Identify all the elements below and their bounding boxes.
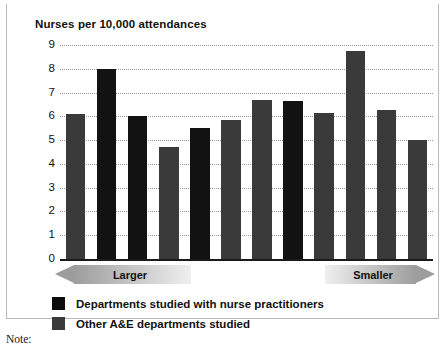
y-axis-tick: 1: [49, 229, 55, 241]
bar: [346, 51, 366, 259]
legend-item-label: Other A&E departments studied: [76, 318, 250, 330]
y-axis-tick: 0: [49, 253, 55, 265]
y-axis-tick: 6: [49, 111, 55, 123]
y-axis-tick: 9: [49, 39, 55, 51]
legend-item-label: Departments studied with nurse practitio…: [76, 298, 324, 310]
bar: [128, 116, 148, 259]
bar-series: [60, 45, 433, 259]
banner-larger: Larger: [55, 265, 191, 284]
y-axis-tick: 8: [49, 63, 55, 75]
bar: [283, 101, 303, 259]
chart-title: Nurses per 10,000 attendances: [35, 18, 207, 30]
y-axis-tick: 7: [49, 87, 55, 99]
bar: [408, 140, 428, 259]
y-axis-tick: 4: [49, 158, 55, 170]
y-axis-tick: 5: [49, 134, 55, 146]
legend-item: Departments studied with nurse practitio…: [52, 297, 324, 310]
bar: [221, 120, 241, 259]
bar: [252, 100, 272, 259]
banner-larger-label: Larger: [55, 269, 191, 281]
chart-page: Nurses per 10,000 attendances 9876543210…: [0, 0, 447, 355]
legend-swatch-icon: [52, 317, 65, 330]
legend-item: Other A&E departments studied: [52, 317, 324, 330]
chart-legend: Departments studied with nurse practitio…: [52, 297, 324, 337]
y-axis-labels: 9876543210: [33, 45, 55, 259]
banner-smaller: Smaller: [325, 265, 435, 284]
legend-swatch-icon: [52, 297, 65, 310]
bar: [190, 128, 210, 259]
bar: [66, 114, 86, 259]
bar: [377, 110, 397, 259]
bar: [159, 147, 179, 259]
bar: [314, 113, 334, 259]
x-axis-line: [60, 259, 433, 261]
bar: [97, 69, 117, 259]
chart-frame: Nurses per 10,000 attendances 9876543210…: [6, 4, 439, 319]
note-label: Note:: [6, 333, 32, 345]
y-axis-tick: 2: [49, 206, 55, 218]
banner-smaller-label: Smaller: [325, 269, 435, 281]
plot-area: [60, 45, 433, 259]
y-axis-tick: 3: [49, 182, 55, 194]
